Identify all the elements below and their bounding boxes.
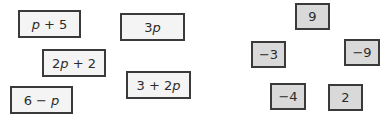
number-card[interactable]: 2: [328, 84, 363, 111]
expression-label: 3p: [144, 20, 161, 35]
expression-text: + 2: [69, 56, 96, 71]
number-label: −4: [278, 89, 297, 104]
expression-label: 3 + 2p: [137, 78, 181, 93]
expression-text: + 5: [40, 17, 67, 32]
number-card[interactable]: 9: [295, 3, 330, 30]
variable-p: p: [60, 56, 68, 71]
expression-label: 2p + 2: [52, 56, 96, 71]
number-label: 2: [341, 90, 349, 105]
number-card[interactable]: −3: [251, 41, 286, 68]
number-card[interactable]: −9: [344, 39, 380, 66]
expression-card[interactable]: 3p: [120, 13, 185, 41]
expression-label: 6 − p: [24, 93, 60, 108]
expression-card[interactable]: 3 + 2p: [126, 71, 191, 99]
variable-p: p: [32, 17, 40, 32]
expression-label: p + 5: [32, 17, 68, 32]
expression-text: 3 + 2: [137, 78, 173, 93]
variable-p: p: [172, 78, 180, 93]
expression-card[interactable]: p + 5: [18, 10, 81, 38]
variable-p: p: [153, 20, 161, 35]
number-label: −3: [259, 47, 278, 62]
expression-card[interactable]: 2p + 2: [42, 49, 106, 77]
expression-card[interactable]: 6 − p: [10, 86, 73, 114]
number-label: 9: [308, 9, 316, 24]
variable-p: p: [51, 93, 59, 108]
expression-text: 3: [144, 20, 152, 35]
number-card[interactable]: −4: [270, 83, 306, 110]
expression-text: 6 −: [24, 93, 51, 108]
number-label: −9: [352, 45, 371, 60]
